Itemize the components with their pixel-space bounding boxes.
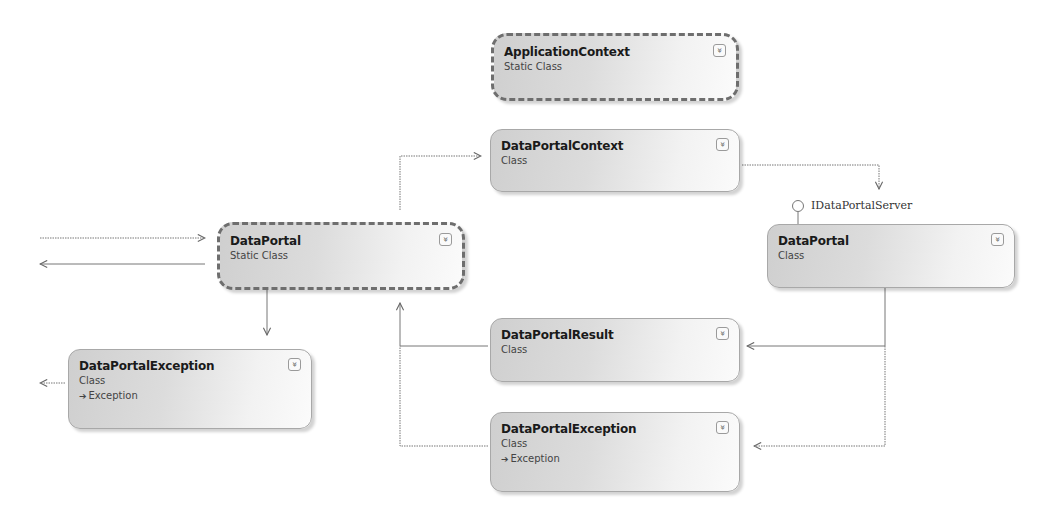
collapse-toggle-icon[interactable]: »: [991, 233, 1004, 246]
base-class-name: Exception: [89, 390, 138, 401]
connector-server-to-exception-right: [754, 346, 885, 446]
class-kind: Class: [79, 374, 301, 388]
class-kind: Class: [778, 249, 1004, 263]
class-name: DataPortal: [778, 234, 1004, 249]
base-class-name: Exception: [511, 453, 560, 464]
class-shape-application-context[interactable]: ApplicationContext Static Class »: [491, 33, 739, 101]
class-name: DataPortalResult: [501, 328, 729, 343]
base-class-line: ➔Exception: [501, 451, 729, 467]
collapse-toggle-icon[interactable]: »: [713, 44, 726, 57]
base-class-line: ➔Exception: [79, 388, 301, 404]
class-kind: Static Class: [504, 60, 726, 74]
class-kind: Class: [501, 154, 729, 168]
class-shape-data-portal-server[interactable]: DataPortal Class »: [767, 224, 1015, 288]
inherits-arrow-icon: ➔: [79, 391, 87, 401]
inherits-arrow-icon: ➔: [501, 454, 509, 464]
class-name: DataPortalException: [79, 359, 301, 374]
class-kind: Class: [501, 343, 729, 357]
class-shape-data-portal-result[interactable]: DataPortalResult Class »: [490, 318, 740, 382]
class-kind: Static Class: [230, 249, 452, 263]
interface-label: IDataPortalServer: [811, 199, 912, 212]
connector-server-to-result: [747, 288, 885, 346]
class-name: DataPortal: [230, 234, 452, 249]
class-shape-data-portal-exception-left[interactable]: DataPortalException Class ➔Exception »: [68, 349, 312, 429]
class-name: DataPortalException: [501, 422, 729, 437]
connector-to-context: [400, 156, 481, 210]
collapse-toggle-icon[interactable]: »: [439, 233, 452, 246]
class-shape-data-portal-context[interactable]: DataPortalContext Class »: [490, 129, 740, 192]
class-name: ApplicationContext: [504, 45, 726, 60]
collapse-toggle-icon[interactable]: »: [288, 358, 301, 371]
class-diagram-canvas: IDataPortalServer ApplicationContext Sta…: [0, 0, 1045, 515]
class-kind: Class: [501, 437, 729, 451]
connector-context-to-server: [742, 165, 879, 189]
class-shape-data-portal-exception-right[interactable]: DataPortalException Class ➔Exception »: [490, 412, 740, 492]
class-name: DataPortalContext: [501, 139, 729, 154]
lollipop-circle: [793, 201, 804, 212]
collapse-toggle-icon[interactable]: »: [716, 421, 729, 434]
connector-exception-right-to-static: [400, 346, 488, 446]
class-shape-data-portal-static[interactable]: DataPortal Static Class »: [217, 222, 465, 290]
connector-result-to-static: [400, 303, 488, 346]
collapse-toggle-icon[interactable]: »: [716, 138, 729, 151]
collapse-toggle-icon[interactable]: »: [716, 327, 729, 340]
